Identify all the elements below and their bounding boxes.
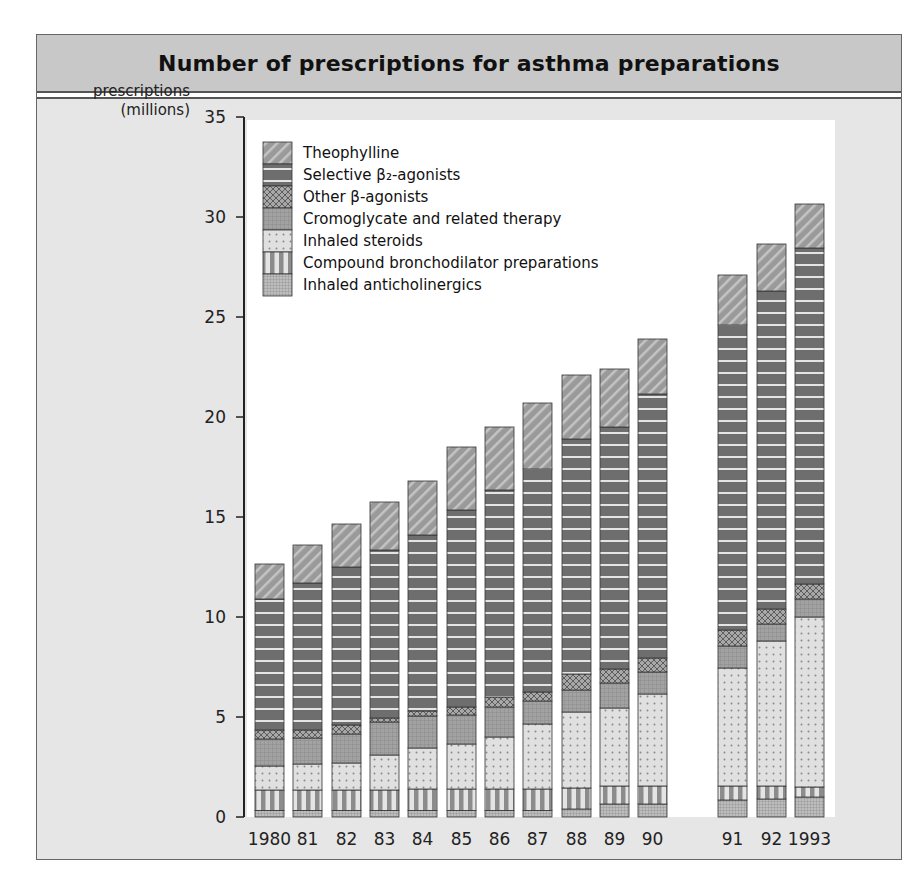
bar-segment-selective-2-agonists	[795, 248, 824, 584]
bar-segment-cromoglycate-and-related-therapy	[757, 624, 786, 641]
legend-swatch-compound-bronchodilator-preparations	[263, 252, 292, 274]
bar-segment-cromoglycate-and-related-therapy	[332, 734, 361, 763]
bar-segment-inhaled-anticholinergics	[485, 810, 514, 817]
bar-segment-theophylline	[757, 244, 786, 291]
bar-92	[757, 244, 786, 817]
bar-segment-theophylline	[255, 564, 284, 599]
bar-segment-theophylline	[523, 403, 552, 469]
bar-segment-cromoglycate-and-related-therapy	[638, 672, 667, 694]
bar-1980	[255, 564, 284, 817]
bar-segment-other-agonists	[447, 707, 476, 715]
x-tick-label: 1993	[788, 829, 831, 849]
legend-swatch-selective-2-agonists	[263, 164, 292, 186]
x-tick-label: 92	[761, 829, 783, 849]
bar-segment-inhaled-steroids	[447, 744, 476, 789]
bar-segment-cromoglycate-and-related-therapy	[485, 707, 514, 737]
bar-86	[485, 427, 514, 817]
bar-segment-inhaled-anticholinergics	[332, 810, 361, 817]
bar-segment-theophylline	[562, 375, 591, 439]
bar-segment-selective-2-agonists	[600, 427, 629, 669]
x-tick-label: 90	[642, 829, 664, 849]
bar-segment-cromoglycate-and-related-therapy	[447, 715, 476, 744]
x-tick-label: 87	[527, 829, 549, 849]
bar-segment-selective-2-agonists	[757, 291, 786, 609]
y-axis: 05101520253035	[204, 107, 244, 827]
bar-segment-cromoglycate-and-related-therapy	[562, 690, 591, 712]
legend-swatch-other-agonists	[263, 186, 292, 208]
bar-segment-inhaled-anticholinergics	[757, 799, 786, 817]
bar-90	[638, 339, 667, 817]
legend-swatch-theophylline	[263, 142, 292, 164]
bar-segment-inhaled-anticholinergics	[523, 810, 552, 817]
bar-segment-compound-bronchodilator-preparations	[447, 789, 476, 810]
bar-segment-theophylline	[718, 275, 747, 325]
bar-segment-inhaled-steroids	[332, 763, 361, 790]
bar-segment-selective-2-agonists	[408, 535, 437, 711]
y-tick-label: 0	[215, 807, 226, 827]
bar-segment-other-agonists	[408, 711, 437, 716]
bar-segment-theophylline	[293, 545, 322, 583]
bar-segment-compound-bronchodilator-preparations	[600, 786, 629, 804]
x-tick-label: 89	[604, 829, 626, 849]
bar-segment-compound-bronchodilator-preparations	[638, 786, 667, 804]
bar-segment-other-agonists	[562, 674, 591, 690]
legend-label-inhaled-steroids: Inhaled steroids	[303, 232, 423, 250]
y-tick-label: 15	[204, 507, 226, 527]
bar-segment-compound-bronchodilator-preparations	[523, 789, 552, 810]
x-tick-label: 86	[489, 829, 511, 849]
bar-segment-cromoglycate-and-related-therapy	[293, 738, 322, 764]
y-tick-label: 25	[204, 307, 226, 327]
bar-segment-selective-2-agonists	[638, 394, 667, 658]
bar-segment-compound-bronchodilator-preparations	[255, 790, 284, 810]
x-tick-label: 84	[412, 829, 434, 849]
bar-segment-theophylline	[447, 447, 476, 510]
bar-82	[332, 524, 361, 817]
bar-segment-compound-bronchodilator-preparations	[408, 789, 437, 810]
bar-segment-compound-bronchodilator-preparations	[293, 790, 322, 810]
x-tick-label: 82	[336, 829, 358, 849]
bar-segment-theophylline	[600, 369, 629, 427]
bar-segment-other-agonists	[638, 658, 667, 672]
y-tick-label: 10	[204, 607, 226, 627]
bar-segment-other-agonists	[293, 730, 322, 738]
bar-segment-inhaled-steroids	[293, 764, 322, 790]
bar-segment-cromoglycate-and-related-therapy	[523, 701, 552, 724]
bar-81	[293, 545, 322, 817]
bar-segment-selective-2-agonists	[718, 325, 747, 630]
bar-segment-other-agonists	[523, 692, 552, 701]
legend-label-inhaled-anticholinergics: Inhaled anticholinergics	[303, 276, 482, 294]
bar-segment-inhaled-anticholinergics	[562, 809, 591, 817]
bar-segment-selective-2-agonists	[523, 469, 552, 692]
x-axis-labels: 19808182838485868788899091921993	[248, 829, 831, 849]
bar-segment-inhaled-steroids	[757, 641, 786, 786]
bar-segment-inhaled-anticholinergics	[718, 800, 747, 817]
bar-segment-selective-2-agonists	[562, 439, 591, 674]
x-tick-label: 83	[374, 829, 396, 849]
bar-segment-other-agonists	[485, 697, 514, 707]
bar-segment-inhaled-steroids	[600, 708, 629, 786]
bar-segment-cromoglycate-and-related-therapy	[408, 716, 437, 748]
bar-segment-other-agonists	[255, 730, 284, 739]
bar-segment-theophylline	[408, 481, 437, 535]
bar-segment-cromoglycate-and-related-therapy	[255, 739, 284, 766]
legend-swatch-cromoglycate-and-related-therapy	[263, 208, 292, 230]
bar-segment-selective-2-agonists	[370, 550, 399, 718]
legend-label-selective-2-agonists: Selective β₂-agonists	[303, 166, 461, 184]
x-tick-label: 91	[722, 829, 744, 849]
legend-label-compound-bronchodilator-preparations: Compound bronchodilator preparations	[303, 254, 599, 272]
bar-segment-theophylline	[795, 204, 824, 248]
bar-segment-inhaled-anticholinergics	[370, 810, 399, 817]
x-tick-label: 1980	[248, 829, 291, 849]
bar-segment-compound-bronchodilator-preparations	[795, 787, 824, 797]
y-tick-label: 30	[204, 207, 226, 227]
bar-83	[370, 502, 399, 817]
bar-segment-compound-bronchodilator-preparations	[718, 786, 747, 800]
bar-segment-inhaled-anticholinergics	[600, 804, 629, 817]
bar-segment-selective-2-agonists	[293, 583, 322, 730]
bar-segment-inhaled-anticholinergics	[408, 810, 437, 817]
bar-segment-inhaled-anticholinergics	[293, 810, 322, 817]
bar-segment-other-agonists	[370, 718, 399, 722]
bar-84	[408, 481, 437, 817]
bar-segment-inhaled-steroids	[638, 694, 667, 786]
bar-segment-cromoglycate-and-related-therapy	[718, 646, 747, 668]
